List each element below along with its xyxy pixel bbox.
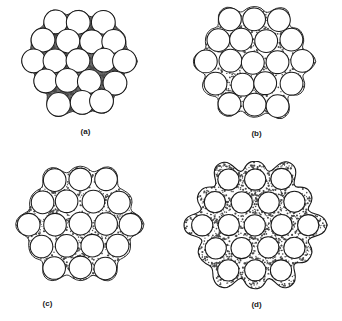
panel-c: (c) [0,160,171,320]
panel-c-illustration [0,160,171,292]
panel-a-illustration [0,0,171,132]
panel-a-caption: (a) [0,127,171,136]
panel-c-caption: (c) [0,299,133,308]
panel-b-illustration [171,0,342,132]
panel-d-caption: (d) [171,300,342,309]
panel-a: (a) [0,0,171,160]
panel-b-caption: (b) [171,129,342,138]
panel-d-illustration [171,161,342,293]
panel-b: (b) [171,0,342,160]
figure-root: (a) (b) (c) (d) [0,0,342,321]
panel-d: (d) [171,161,342,321]
